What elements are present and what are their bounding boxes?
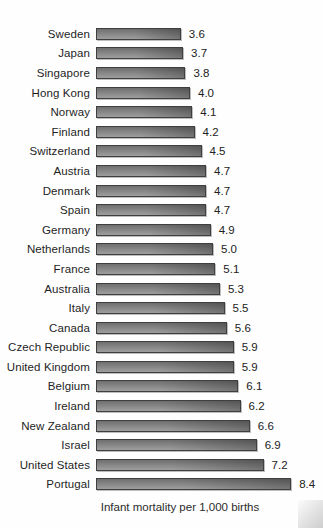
value-label: 4.7 — [214, 204, 230, 216]
bar — [96, 361, 234, 373]
bar-row: Netherlands5.0 — [0, 240, 323, 260]
bar-row: Canada5.6 — [0, 318, 323, 338]
bar — [96, 47, 183, 59]
value-label: 5.9 — [242, 341, 258, 353]
bar-row: Italy5.5 — [0, 298, 323, 318]
country-label: Netherlands — [0, 243, 90, 255]
value-label: 5.9 — [242, 361, 258, 373]
country-label: Denmark — [0, 185, 90, 197]
country-label: Czech Republic — [0, 341, 90, 353]
value-label: 4.7 — [214, 185, 230, 197]
bar-row: Sweden3.6 — [0, 24, 323, 44]
bar — [96, 400, 241, 412]
bar-row: Japan3.7 — [0, 44, 323, 64]
bar — [96, 145, 202, 157]
bar — [96, 28, 181, 40]
value-label: 6.9 — [265, 439, 281, 451]
bar — [96, 224, 211, 236]
country-label: Austria — [0, 165, 90, 177]
country-label: Singapore — [0, 67, 90, 79]
value-label: 4.5 — [210, 145, 226, 157]
bar — [96, 302, 225, 314]
bar-rows: Sweden3.6Japan3.7Singapore3.8Hong Kong4.… — [0, 0, 323, 494]
value-label: 5.0 — [221, 243, 237, 255]
bar-row: Switzerland4.5 — [0, 142, 323, 162]
value-label: 4.7 — [214, 165, 230, 177]
bar — [96, 341, 234, 353]
bar-row: United Kingdom5.9 — [0, 357, 323, 377]
bar-row: Denmark4.7 — [0, 181, 323, 201]
bar — [96, 87, 190, 99]
page-edge-artifact — [298, 500, 323, 528]
country-label: Sweden — [0, 28, 90, 40]
country-label: Portugal — [0, 478, 90, 490]
bar — [96, 322, 227, 334]
value-label: 5.1 — [223, 263, 239, 275]
country-label: Australia — [0, 283, 90, 295]
country-label: Germany — [0, 224, 90, 236]
bar-row: Australia5.3 — [0, 279, 323, 299]
country-label: Israel — [0, 439, 90, 451]
bar-row: France5.1 — [0, 259, 323, 279]
value-label: 4.2 — [203, 126, 219, 138]
value-label: 8.4 — [299, 478, 315, 490]
bar-row: Belgium6.1 — [0, 377, 323, 397]
value-label: 3.8 — [193, 67, 209, 79]
bar — [96, 204, 206, 216]
bar — [96, 380, 238, 392]
bar — [96, 439, 257, 451]
value-label: 5.5 — [233, 302, 249, 314]
bar-row: Hong Kong4.0 — [0, 83, 323, 103]
country-label: New Zealand — [0, 420, 90, 432]
bar-row: Czech Republic5.9 — [0, 338, 323, 358]
bar-row: Singapore3.8 — [0, 63, 323, 83]
bar-row: New Zealand6.6 — [0, 416, 323, 436]
bar — [96, 283, 220, 295]
value-label: 3.6 — [189, 28, 205, 40]
value-label: 6.6 — [258, 420, 274, 432]
country-label: Ireland — [0, 400, 90, 412]
bar-row: Germany4.9 — [0, 220, 323, 240]
country-label: Spain — [0, 204, 90, 216]
value-label: 5.6 — [235, 322, 251, 334]
value-label: 6.1 — [246, 380, 262, 392]
bar — [96, 263, 215, 275]
country-label: Italy — [0, 302, 90, 314]
bar — [96, 459, 264, 471]
value-label: 4.0 — [198, 87, 214, 99]
bar — [96, 478, 291, 490]
bar-row: Austria4.7 — [0, 161, 323, 181]
bar-row: Israel6.9 — [0, 435, 323, 455]
country-label: United Kingdom — [0, 361, 90, 373]
country-label: Norway — [0, 106, 90, 118]
bar — [96, 106, 192, 118]
bar — [96, 243, 213, 255]
value-label: 7.2 — [272, 459, 288, 471]
country-label: Japan — [0, 47, 90, 59]
value-label: 5.3 — [228, 283, 244, 295]
bar-row: Ireland6.2 — [0, 396, 323, 416]
country-label: France — [0, 263, 90, 275]
country-label: Belgium — [0, 380, 90, 392]
x-axis-label: Infant mortality per 1,000 births — [70, 501, 290, 513]
value-label: 3.7 — [191, 47, 207, 59]
infant-mortality-bar-chart: Sweden3.6Japan3.7Singapore3.8Hong Kong4.… — [0, 0, 323, 494]
value-label: 4.1 — [200, 106, 216, 118]
country-label: Hong Kong — [0, 87, 90, 99]
bar-row: Portugal8.4 — [0, 475, 323, 495]
bar — [96, 67, 185, 79]
country-label: Canada — [0, 322, 90, 334]
chart-page: Sweden3.6Japan3.7Singapore3.8Hong Kong4.… — [0, 0, 323, 528]
country-label: Finland — [0, 126, 90, 138]
bar — [96, 126, 195, 138]
bar — [96, 185, 206, 197]
bar-row: Norway4.1 — [0, 102, 323, 122]
bar — [96, 165, 206, 177]
bar-row: Spain4.7 — [0, 200, 323, 220]
value-label: 6.2 — [249, 400, 265, 412]
bar-row: United States7.2 — [0, 455, 323, 475]
country-label: United States — [0, 459, 90, 471]
bar — [96, 420, 250, 432]
country-label: Switzerland — [0, 145, 90, 157]
bar-row: Finland4.2 — [0, 122, 323, 142]
